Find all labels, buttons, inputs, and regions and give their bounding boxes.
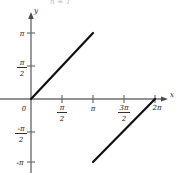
data-segment-1 <box>31 33 93 99</box>
y-tick-label-pi-over-2-numerator: π <box>19 59 25 67</box>
x-axis-arrow-icon <box>161 96 168 101</box>
x-tick-label-3pi-over-2-denominator: 2 <box>121 115 127 123</box>
x-tick-label-3pi-over-2-numerator: 3π <box>119 104 128 112</box>
y-axis-label: y <box>33 7 39 15</box>
figure-container: n = 1 y x 0 π 2 π 3π 2 2π <box>0 0 176 173</box>
x-tick-label-2pi: 2π <box>151 104 161 112</box>
y-tick-label-pi: π <box>19 30 25 38</box>
y-axis-arrow-icon <box>28 12 34 19</box>
plot-svg: y x 0 π 2 π 3π 2 2π π π 2 -π 2 -π <box>0 0 176 173</box>
x-axis-label: x <box>170 91 174 99</box>
y-tick-label-pi-over-2-denominator: 2 <box>19 70 25 78</box>
x-tick-label-pi-over-2-denominator: 2 <box>59 115 65 123</box>
y-tick-label-neg-pi-over-2-denominator: 2 <box>18 136 24 144</box>
x-tick-label-origin: 0 <box>22 105 27 113</box>
x-tick-label-pi: π <box>90 105 96 113</box>
y-tick-label-neg-pi-over-2-numerator: -π <box>18 125 25 133</box>
x-tick-label-pi-over-2-numerator: π <box>59 104 65 112</box>
y-tick-label-neg-pi: -π <box>17 159 24 167</box>
figure-caption: n = 1 <box>50 0 71 5</box>
